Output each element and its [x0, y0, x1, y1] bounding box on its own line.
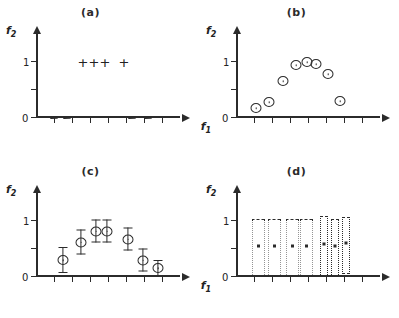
- interval-box: [268, 219, 281, 277]
- y-axis-line: [236, 32, 238, 118]
- x-tick-1: [54, 276, 55, 282]
- panel-c-title: (c): [0, 165, 199, 178]
- panel-b: (b) f2 f1 1 0: [200, 0, 399, 159]
- y-tick-label-1: 1: [223, 216, 229, 227]
- errorbar-point: [123, 228, 133, 251]
- errorbar-point: [153, 260, 163, 276]
- y-axis-line: [36, 32, 38, 118]
- y-tick-mid: [231, 89, 237, 90]
- x-tick-4: [108, 117, 109, 123]
- y-axis-label: f2: [206, 183, 216, 198]
- y-tick-mid: [31, 89, 37, 90]
- panel-b-title: (b): [200, 6, 399, 19]
- y-axis-arrow-icon: [233, 26, 241, 34]
- y-tick-mid: [31, 248, 37, 249]
- x-axis-arrow-icon: [382, 114, 390, 122]
- marker-circle: [278, 76, 289, 86]
- y-tick-mid: [231, 248, 237, 249]
- y-axis-label: f2: [206, 24, 216, 39]
- marker-circle: [251, 103, 262, 113]
- x-axis-arrow-icon: [382, 273, 390, 281]
- x-axis-arrow-icon: [182, 114, 190, 122]
- y-tick-label-0: 0: [222, 113, 228, 124]
- marker-circle: [311, 59, 322, 69]
- y-tick-0: [231, 276, 237, 277]
- y-tick-label-1: 1: [23, 216, 29, 227]
- y-axis-line: [36, 191, 38, 277]
- y-tick-label-0: 0: [22, 113, 28, 124]
- marker-plus: +: [78, 56, 89, 69]
- y-axis-label: f2: [6, 24, 16, 39]
- errorbar-point: [102, 220, 112, 243]
- errorbar-point: [58, 247, 68, 273]
- y-axis-arrow-icon: [33, 185, 41, 193]
- y-tick-label-1: 1: [23, 57, 29, 68]
- panel-d-plot: f2 f1 1 0: [236, 197, 381, 277]
- panel-c-plot: f2 f1 1 0: [36, 197, 181, 277]
- x-tick-2: [272, 117, 273, 123]
- panel-d-title: (d): [200, 165, 399, 178]
- y-axis-arrow-icon: [233, 185, 241, 193]
- x-tick-2: [72, 117, 73, 123]
- y-tick-1: [231, 61, 237, 62]
- marker-plus: +: [119, 56, 130, 69]
- y-tick-label-0: 0: [222, 272, 228, 283]
- y-tick-label-0: 0: [22, 272, 28, 283]
- y-tick-1: [31, 61, 37, 62]
- panel-d: (d) f2 f1 1 0: [200, 159, 399, 318]
- panel-a-plot: f2 f1 1 0 + + + +: [36, 38, 181, 118]
- panel-b-plot: f2 f1 1 0: [236, 38, 381, 118]
- x-axis-arrow-icon: [182, 273, 190, 281]
- y-tick-label-1: 1: [223, 57, 229, 68]
- marker-plus: +: [89, 56, 100, 69]
- errorbar-point: [138, 249, 148, 272]
- x-tick-7: [162, 117, 163, 123]
- x-tick-3: [290, 117, 291, 123]
- x-tick-2: [72, 276, 73, 282]
- panel-a-title: (a): [0, 6, 199, 19]
- marker-plus: +: [100, 56, 111, 69]
- y-axis-line: [236, 191, 238, 277]
- x-tick-3: [90, 117, 91, 123]
- interval-box: [252, 219, 265, 277]
- x-tick-6: [344, 276, 345, 282]
- errorbar-point: [76, 230, 86, 255]
- x-tick-6: [344, 117, 345, 123]
- x-tick-7: [162, 276, 163, 282]
- marker-circle: [323, 69, 334, 79]
- errorbar-point: [91, 220, 101, 243]
- x-tick-4: [108, 276, 109, 282]
- x-tick-7: [362, 117, 363, 123]
- marker-minus: [144, 117, 152, 119]
- interval-box: [286, 219, 299, 277]
- y-tick-1: [31, 220, 37, 221]
- marker-minus: [63, 117, 71, 119]
- x-tick-1: [254, 117, 255, 123]
- marker-circle: [291, 60, 302, 70]
- x-tick-5: [326, 117, 327, 123]
- marker-circle: [335, 96, 346, 106]
- panel-c: (c) f2 f1 1 0: [0, 159, 199, 318]
- interval-box: [320, 216, 328, 277]
- x-tick-5: [126, 276, 127, 282]
- x-tick-7: [362, 276, 363, 282]
- marker-minus: [128, 117, 136, 119]
- panel-a: (a) f2 f1 1 0 + + + +: [0, 0, 199, 159]
- x-tick-6: [144, 276, 145, 282]
- y-axis-label: f2: [6, 183, 16, 198]
- interval-box: [342, 217, 350, 274]
- x-tick-3: [90, 276, 91, 282]
- interval-box: [300, 219, 313, 277]
- y-axis-arrow-icon: [33, 26, 41, 34]
- y-tick-0: [231, 117, 237, 118]
- y-tick-0: [31, 276, 37, 277]
- y-tick-0: [31, 117, 37, 118]
- y-tick-1: [231, 220, 237, 221]
- interval-box: [331, 219, 339, 277]
- marker-circle: [264, 97, 275, 107]
- x-tick-4: [308, 117, 309, 123]
